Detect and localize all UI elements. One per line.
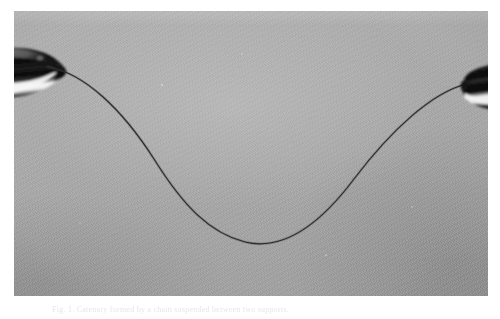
chain-stroke xyxy=(48,67,466,244)
right-clamp-nub xyxy=(461,81,468,91)
suspended-chain-curve xyxy=(48,67,466,244)
dust-speck xyxy=(161,84,163,86)
left-clamp-electrode xyxy=(14,48,66,98)
chain-halo xyxy=(48,67,466,244)
dust-speck xyxy=(241,53,243,55)
figure-caption: Fig. 1. Catenary formed by a chain suspe… xyxy=(52,302,382,317)
dust-speck xyxy=(263,128,264,129)
left-clamp-speck xyxy=(37,56,43,60)
photo-scene xyxy=(14,11,488,296)
figure-root: Fig. 1. Catenary formed by a chain suspe… xyxy=(0,0,500,319)
dust-speck xyxy=(325,254,327,256)
dust-speck xyxy=(411,206,413,208)
photograph-plate xyxy=(14,11,488,296)
dust-speck xyxy=(79,222,80,223)
right-clamp-electrode xyxy=(461,63,488,111)
dust-specks xyxy=(79,53,413,256)
